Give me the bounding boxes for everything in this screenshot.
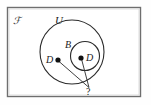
set-b-label: B — [65, 40, 71, 50]
question-mark-label: ? — [86, 87, 90, 97]
outer-frame-rect — [8, 8, 141, 97]
set-diagram-figure: ℱ U B D D ? — [0, 0, 151, 105]
point-dot-right — [78, 55, 83, 60]
set-u-label: U — [55, 15, 63, 26]
universe-label: ℱ — [13, 16, 21, 26]
point-d-right-label: D — [86, 53, 93, 63]
diagram-canvas — [0, 0, 151, 105]
point-dot-left — [55, 57, 60, 62]
point-d-left-label: D — [46, 55, 53, 65]
